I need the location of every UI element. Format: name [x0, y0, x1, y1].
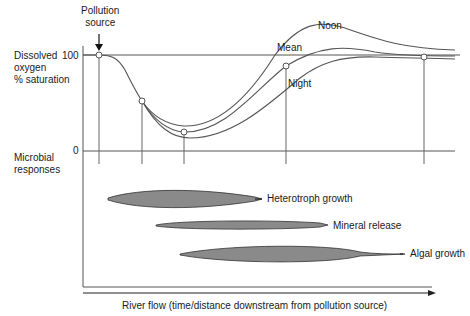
- pollution-source-label: Pollution source: [81, 5, 119, 29]
- river-flow-arrow-head-icon: [428, 290, 436, 296]
- heterotroph-growth-label: Heterotroph growth: [267, 193, 353, 205]
- data-markers: [96, 52, 427, 135]
- y-tick-100: 100: [62, 50, 79, 62]
- heterotroph-growth-lens: [108, 190, 262, 207]
- x-axis-label: River flow (time/distance downstream fro…: [122, 300, 387, 312]
- noon-label: Noon: [318, 20, 342, 32]
- mean-label: Mean: [277, 42, 302, 54]
- y-tick-0: 0: [73, 145, 79, 157]
- night-label: Night: [288, 78, 311, 90]
- mean-curve: [142, 48, 455, 132]
- mineral-release-lens: [156, 221, 328, 229]
- arrow-head-icon: [95, 44, 103, 51]
- noon-curve: [83, 24, 455, 126]
- diagram-canvas: [0, 0, 470, 316]
- mineral-release-label: Mineral release: [333, 220, 401, 232]
- microbial-responses-label: Microbial responses: [14, 152, 60, 176]
- algal-growth-label: Algal growth: [410, 248, 465, 260]
- algal-growth-lens: [180, 246, 405, 262]
